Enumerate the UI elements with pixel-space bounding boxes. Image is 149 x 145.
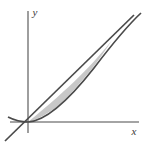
x-axis-label: x [131, 125, 137, 137]
math-figure: y x [0, 0, 149, 145]
graph-canvas: y x [0, 0, 149, 145]
y-axis-label: y [32, 6, 38, 18]
shaded-region [28, 40, 112, 122]
